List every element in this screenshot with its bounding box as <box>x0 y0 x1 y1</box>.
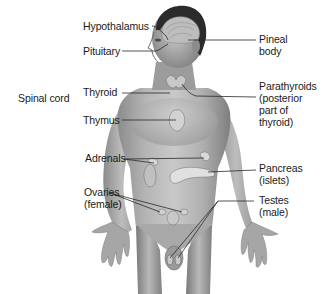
thymus-organ <box>169 110 185 131</box>
label-ovaries: Ovaries (female) <box>84 186 122 210</box>
endocrine-diagram: Hypothalamus Pituitary Spinal cord Thyro… <box>0 0 328 294</box>
label-hypothalamus: Hypothalamus <box>83 20 149 32</box>
left-kidney <box>144 164 156 187</box>
right-hand <box>241 222 278 267</box>
label-adrenals: Adrenals <box>85 152 126 164</box>
ovary-right <box>180 209 188 215</box>
label-pineal-body: Pineal body <box>259 33 288 57</box>
label-thyroid: Thyroid <box>83 86 117 98</box>
label-pituitary: Pituitary <box>83 45 120 57</box>
label-parathyroids: Parathyroids (posterior part of thyroid) <box>259 80 317 128</box>
label-pancreas: Pancreas (islets) <box>259 162 303 186</box>
label-thymus: Thymus <box>83 114 120 126</box>
uterus <box>167 211 179 225</box>
ovary-left <box>158 209 166 215</box>
label-spinal-cord: Spinal cord <box>18 92 69 104</box>
label-testes: Testes (male) <box>259 194 289 218</box>
